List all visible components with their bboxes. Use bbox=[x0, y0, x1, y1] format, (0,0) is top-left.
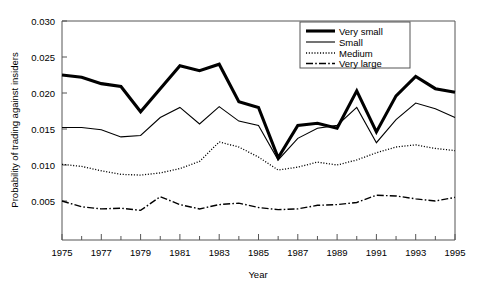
y-tick-label: 0.010 bbox=[31, 160, 55, 171]
chart-legend: Very small Small Medium Very large bbox=[300, 22, 410, 69]
x-tick-label: 1977 bbox=[91, 247, 112, 258]
x-tick-label: 1975 bbox=[51, 247, 72, 258]
legend-label-very-large: Very large bbox=[339, 58, 382, 69]
y-tick-label: 0.015 bbox=[31, 124, 55, 135]
legend-label-medium: Medium bbox=[339, 48, 373, 59]
x-tick-label: 1985 bbox=[248, 247, 269, 258]
x-axis-title: Year bbox=[248, 269, 267, 280]
x-tick-label: 1987 bbox=[287, 247, 308, 258]
legend-label-very-small: Very small bbox=[339, 26, 383, 37]
y-axis-title: Probability of trading against insiders bbox=[9, 52, 20, 208]
x-tick-label: 1989 bbox=[327, 247, 348, 258]
x-tick-label: 1979 bbox=[130, 247, 151, 258]
x-tick-label: 1993 bbox=[405, 247, 426, 258]
y-tick-label: 0.005 bbox=[31, 196, 55, 207]
x-tick-label: 1995 bbox=[444, 247, 465, 258]
probability-trading-against-insiders-line-chart: 0.0300.0250.0200.0150.0100.005 197519771… bbox=[0, 0, 484, 285]
y-tick-label: 0.030 bbox=[31, 16, 55, 27]
y-tick-label: 0.025 bbox=[31, 52, 55, 63]
chart-background bbox=[0, 0, 484, 285]
x-tick-label: 1981 bbox=[169, 247, 190, 258]
x-tick-label: 1983 bbox=[209, 247, 230, 258]
y-tick-label: 0.020 bbox=[31, 88, 55, 99]
legend-label-small: Small bbox=[339, 37, 363, 48]
x-tick-label: 1991 bbox=[366, 247, 387, 258]
chart-figure: 0.0300.0250.0200.0150.0100.005 197519771… bbox=[0, 0, 484, 285]
